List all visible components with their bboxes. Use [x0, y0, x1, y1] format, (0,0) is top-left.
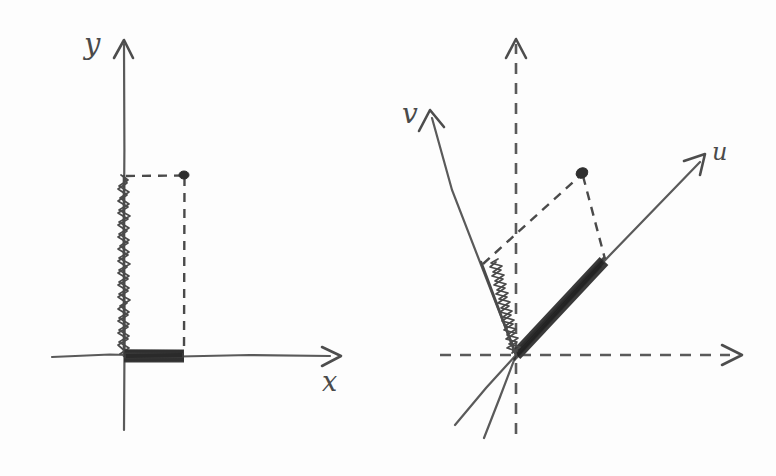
v-component-core — [481, 262, 516, 355]
right-panel — [419, 39, 742, 438]
v-axis-label: v — [402, 100, 418, 128]
u-axis-label: u — [712, 140, 727, 164]
u-axis-arrowhead — [684, 154, 705, 175]
left-vector-tip-dot — [179, 171, 189, 179]
y-axis-label: y — [84, 30, 100, 59]
left-panel — [52, 40, 341, 430]
u-component-bar-shade-c — [517, 262, 603, 355]
sketch-surface — [0, 0, 776, 476]
x-component-bar-shade-b — [124, 359, 184, 360]
u-parallel-projection-dash — [583, 176, 605, 259]
diagram-canvas: y x v u — [0, 0, 776, 476]
x-axis-label: x — [322, 368, 337, 395]
x-component-bar-shade-c — [126, 355, 182, 356]
v-parallel-projection-dash — [483, 174, 582, 264]
u-component-bar-shade-a — [518, 257, 605, 350]
v-axis-arrowhead — [419, 110, 444, 131]
horizontal-projection-dash — [126, 176, 184, 177]
vertical-projection-dash — [184, 177, 185, 352]
right-vector-tip-dot — [574, 166, 589, 180]
v-axis-line — [432, 118, 516, 425]
x-axis-line — [52, 355, 330, 358]
x-component-bar-shade-a — [125, 351, 183, 352]
